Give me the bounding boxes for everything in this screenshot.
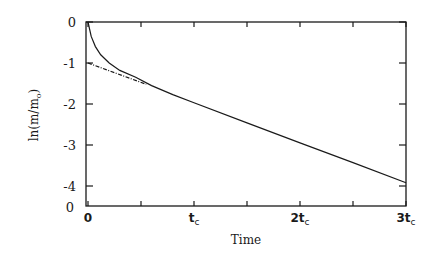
y-tick-label: -4	[63, 179, 76, 194]
solid-data-curve	[88, 22, 406, 183]
x-axis-label: Time	[231, 233, 261, 247]
y-tick-label: 0	[68, 15, 76, 30]
x-tick-label: tc	[189, 211, 200, 227]
x-tick-label: 0	[84, 211, 92, 225]
y-tick-label: -2	[63, 97, 76, 112]
y-tick-label: -3	[63, 138, 76, 153]
dashed-extrapolation-line	[88, 63, 146, 84]
y-origin-label: 0	[66, 200, 74, 215]
chart: 0-1-2-3-4 0tc2tc3tc 0 Time ln(m/mo)	[0, 0, 435, 255]
plot-frame	[86, 22, 406, 206]
y-axis-ticks: 0-1-2-3-4	[63, 15, 406, 194]
y-tick-label: -1	[63, 56, 76, 71]
x-tick-label: 2tc	[290, 211, 309, 227]
svg-text:ln(m/mo): ln(m/mo)	[27, 89, 43, 142]
series-lines	[88, 22, 406, 183]
y-axis-label: ln(m/mo)	[27, 89, 43, 142]
x-tick-label: 3tc	[396, 211, 415, 227]
